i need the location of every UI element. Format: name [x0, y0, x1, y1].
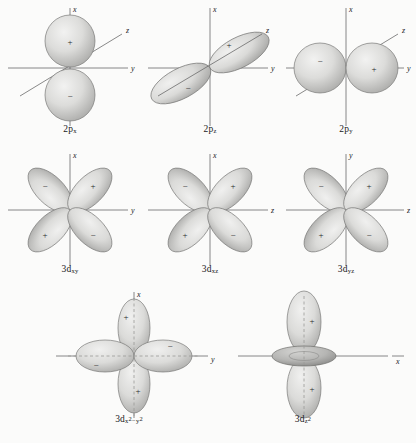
axis-label-x: x [72, 5, 77, 14]
axis-label-x: x [212, 5, 217, 14]
orbital-svg-3dxy: y x − + + − [0, 148, 140, 272]
axis-label-y: y [348, 151, 353, 160]
orbital-diagram-2py: z y x − + 2py [280, 0, 416, 148]
orbital-label-2pz: 2pz [140, 124, 280, 134]
orbital-label-3dyz: 3dyz [276, 264, 416, 274]
sign-negative: − [67, 91, 72, 101]
orbital-diagram-2px: z y x + − 2px [0, 0, 140, 148]
sign-upper-right: + [230, 181, 235, 191]
sign-positive: + [371, 64, 376, 74]
axis-label-y: y [406, 64, 411, 73]
sign-upper-right: + [90, 181, 95, 191]
sign-lower-right: − [90, 230, 95, 240]
sign-lower-left: + [182, 230, 187, 240]
orbital-diagram-3dz2: x z + + 3dz2 [228, 288, 416, 443]
orbital-svg-2px: z y x + − [0, 0, 140, 132]
axis-label-y: y [130, 206, 135, 215]
orbital-lobe-negative [145, 55, 217, 112]
orbital-svg-3dz2: x z + + [228, 288, 416, 424]
sign-upper-left: − [182, 181, 187, 191]
sign-negative: − [185, 83, 190, 93]
sign-left: − [93, 360, 98, 370]
axis-label-y: y [210, 355, 215, 364]
orbital-lobe-positive [203, 24, 275, 81]
axis-label-y: y [130, 64, 135, 73]
sign-lower-right: − [230, 230, 235, 240]
axis-label-z: z [265, 26, 270, 35]
orbital-label-2px: 2px [0, 124, 140, 134]
orbital-diagram-3dxz: z x − + + − 3dxz [140, 148, 280, 288]
sign-bottom: + [309, 384, 314, 394]
orbital-svg-3dx2-y2: y x + + − − [48, 288, 228, 424]
sign-upper-left: − [318, 181, 323, 191]
sign-upper-right: + [366, 181, 371, 191]
sign-upper-left: − [42, 181, 47, 191]
sign-lower-right: − [366, 230, 371, 240]
sign-bottom: + [135, 386, 140, 396]
axis-label-z: z [406, 206, 411, 215]
orbital-diagram-2pz: y x z + − 2pz [140, 0, 280, 148]
axis-label-z: z [401, 26, 406, 35]
orbital-diagram-3dyz: z y − + + − 3dyz [280, 148, 416, 288]
axis-label-x: x [136, 290, 141, 299]
sign-top: + [309, 316, 314, 326]
orbital-svg-3dyz: z y − + + − [280, 148, 416, 272]
axis-label-x: x [395, 357, 400, 366]
orbital-label-3dxy: 3dxy [0, 264, 140, 274]
sign-lower-left: + [42, 230, 47, 240]
sign-positive: + [226, 40, 231, 50]
orbital-label-3dxz: 3dxz [140, 264, 280, 274]
axis-label-x: x [212, 151, 217, 160]
orbital-lobe-top [287, 291, 321, 353]
orbital-label-2py: 2py [276, 124, 416, 134]
sign-top: + [123, 312, 128, 322]
axis-label-x: x [348, 5, 353, 14]
orbital-svg-2py: z y x − + [280, 0, 416, 132]
sign-lower-left: + [318, 230, 323, 240]
orbital-label-3dz2: 3dz2 [190, 414, 416, 424]
sign-negative: − [317, 56, 322, 66]
axis-label-y: y [270, 64, 275, 73]
orbital-svg-2pz: y x z + − [140, 0, 280, 132]
orbital-figure: z y x + − 2px y x z + − [0, 0, 416, 443]
sign-positive: + [67, 37, 72, 47]
axis-label-z: z [125, 26, 130, 35]
orbital-svg-3dxz: z x − + + − [140, 148, 280, 272]
sign-right: − [167, 341, 172, 351]
orbital-diagram-3dxy: y x − + + − 3dxy [0, 148, 140, 288]
axis-label-x: x [72, 151, 77, 160]
orbital-lobe-negative [294, 43, 346, 93]
axis-label-z: z [270, 206, 275, 215]
